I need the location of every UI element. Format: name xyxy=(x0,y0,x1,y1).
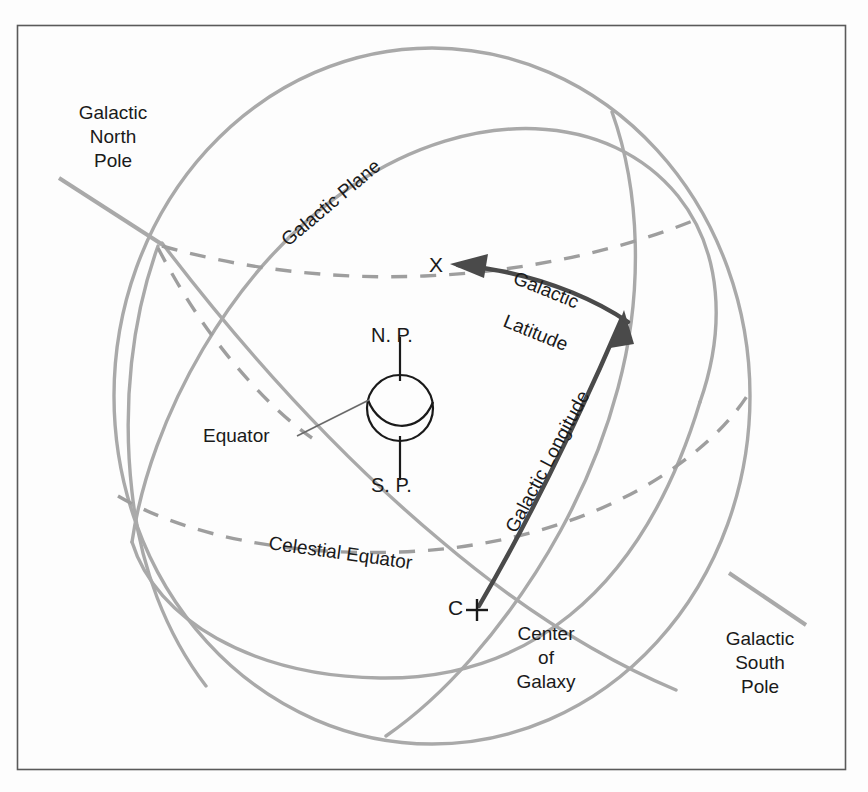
celestial-equator-left-link xyxy=(158,248,312,438)
svg-text:Pole: Pole xyxy=(741,676,779,697)
celestial-equator-label: Celestial Equator xyxy=(267,532,414,573)
svg-text:of: of xyxy=(538,647,555,668)
celestial-sphere-outline xyxy=(114,48,750,744)
svg-text:South: South xyxy=(735,652,785,673)
galactic-plane-label: Galactic Plane xyxy=(277,155,384,250)
svg-text:Center: Center xyxy=(517,623,575,644)
point-x-label: X xyxy=(429,253,443,276)
point-c-label: C xyxy=(448,596,463,619)
svg-text:North: North xyxy=(90,126,136,147)
svg-text:Galactic: Galactic xyxy=(726,628,795,649)
galactic-latitude-label-line1: Galactic xyxy=(511,267,583,312)
earth-equator-curve xyxy=(368,400,433,426)
galactic-latitude-label-group: Galactic Latitude xyxy=(501,267,583,355)
galactic-north-pole-leader xyxy=(59,178,163,245)
galactic-longitude-meridian xyxy=(386,112,635,736)
diagram-canvas: Galactic Plane Celestial Equator Galacti… xyxy=(0,0,868,792)
celestial-equator-label-group: Celestial Equator xyxy=(267,532,414,573)
galactic-meridian-front xyxy=(162,243,676,690)
point-c-marker xyxy=(466,599,488,621)
galactic-south-pole-label: Galactic South Pole xyxy=(726,628,795,697)
svg-text:Galactic: Galactic xyxy=(79,102,148,123)
galactic-plane-label-group: Galactic Plane xyxy=(277,155,384,250)
equator-label: Equator xyxy=(203,425,270,446)
celestial-equator-lower xyxy=(118,388,752,553)
svg-text:Galaxy: Galaxy xyxy=(516,671,576,692)
galactic-longitude-label: Galactic Longitude xyxy=(501,387,593,536)
galactic-coordinates-figure: Galactic Plane Celestial Equator Galacti… xyxy=(0,0,868,792)
earth-outline xyxy=(367,375,433,441)
earth-sphere xyxy=(367,337,433,480)
equator-leader-line xyxy=(297,400,369,436)
north-pole-abbrev-label: N. P. xyxy=(371,324,413,346)
galactic-longitude-label-group: Galactic Longitude xyxy=(501,387,593,536)
galactic-south-pole-leader xyxy=(729,573,806,625)
south-pole-abbrev-label: S. P. xyxy=(371,474,412,496)
galactic-latitude-label-line2: Latitude xyxy=(501,310,572,355)
center-of-galaxy-label: Center of Galaxy xyxy=(516,623,576,692)
svg-text:Pole: Pole xyxy=(94,150,132,171)
galactic-north-pole-label: Galactic North Pole xyxy=(79,102,148,171)
